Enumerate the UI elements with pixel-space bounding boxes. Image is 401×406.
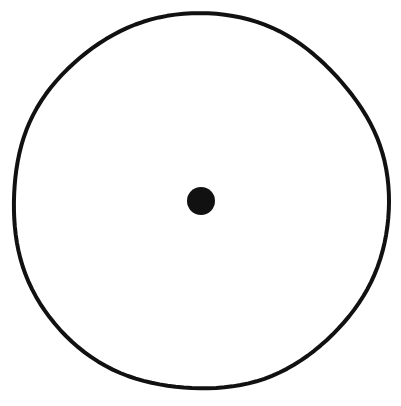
center-dot bbox=[187, 187, 215, 215]
figure-canvas bbox=[0, 0, 401, 406]
circle-diagram-svg bbox=[0, 0, 401, 406]
